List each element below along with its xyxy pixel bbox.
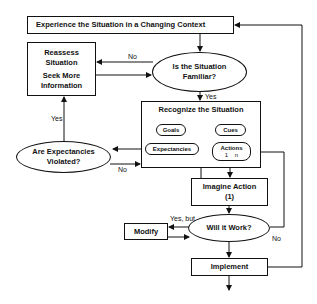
edge-label-yes-but: Yes, but: [170, 215, 195, 222]
reassess-box: Reassess Situation Seek More Information: [27, 42, 96, 96]
modify-label: Modify: [134, 227, 158, 237]
implement-box: Implement: [191, 258, 268, 276]
is-familiar-decision: Is the Situation Familiar?: [152, 52, 247, 92]
edge-label-no-familiar: No: [128, 53, 137, 60]
will-work-label: Will it Work?: [206, 223, 251, 233]
edge-label-no-work: No: [272, 235, 281, 242]
expectancies-violated-decision: Are Expectancies Violated?: [16, 141, 111, 173]
familiar-label: Is the Situation Familiar?: [167, 62, 232, 82]
edge-label-no-violated: No: [118, 166, 127, 173]
goals-pill: Goals: [156, 124, 186, 136]
actions-pill: Actions 1 n: [212, 142, 251, 161]
imagine-sub-label: (1): [225, 192, 234, 202]
goals-label: Goals: [163, 127, 180, 134]
imagine-action-box: Imagine Action (1): [191, 178, 268, 206]
experience-situation-box: Experience the Situation in a Changing C…: [27, 16, 234, 34]
implement-label: Implement: [211, 262, 249, 272]
experience-label: Experience the Situation in a Changing C…: [36, 20, 205, 30]
edge-label-yes-violated: Yes: [51, 115, 62, 122]
cues-label: Cues: [223, 127, 238, 134]
edge-label-yes-familiar: Yes: [205, 93, 216, 100]
recognize-title: Recognize the Situation: [158, 105, 243, 115]
reassess-label: Reassess Situation: [42, 48, 82, 68]
expectancies-label: Expectancies: [153, 146, 191, 153]
cues-pill: Cues: [215, 124, 246, 136]
expectancies-pill: Expectancies: [145, 143, 199, 155]
imagine-label: Imagine Action: [203, 182, 256, 192]
violated-label: Are Expectancies Violated?: [29, 147, 98, 167]
seek-info-label: Seek More Information: [37, 71, 87, 91]
actions-sub-label: 1 n: [225, 152, 238, 159]
modify-box: Modify: [124, 223, 168, 240]
actions-label: Actions: [220, 145, 242, 152]
will-it-work-decision: Will it Work?: [188, 214, 270, 242]
